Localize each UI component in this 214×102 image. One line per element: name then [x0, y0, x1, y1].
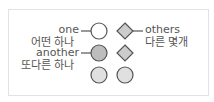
circle-white-icon — [91, 23, 107, 39]
circle-light-icon — [117, 67, 133, 83]
diamond-icon — [117, 23, 133, 39]
shapes-layer — [0, 0, 214, 102]
circle-gray-icon — [91, 45, 107, 61]
diamond-icon — [117, 45, 133, 61]
circle-light-icon — [91, 67, 107, 83]
